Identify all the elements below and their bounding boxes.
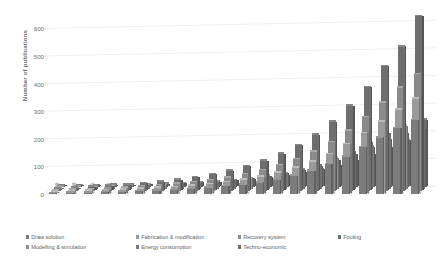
bar-side [216, 174, 217, 190]
bar-top [325, 163, 332, 165]
legend-label: Draw solution [31, 234, 64, 240]
legend-item[interactable]: Techno-economic [238, 244, 286, 250]
legend-item[interactable]: Fouling [338, 234, 361, 240]
legend-item[interactable]: Energy consumption [136, 244, 191, 250]
bar-face [239, 185, 246, 194]
bar-side [319, 135, 320, 190]
bar-side [322, 166, 323, 188]
bar-face [118, 192, 125, 194]
bar-top [326, 153, 333, 155]
legend-swatch-icon [136, 235, 139, 238]
bar-top [187, 188, 194, 190]
legend-swatch-icon [238, 235, 241, 238]
bar-top [376, 136, 383, 138]
bar-side [78, 188, 79, 190]
bar-top [101, 191, 108, 193]
legend-swatch-icon [136, 245, 139, 248]
bar-side [419, 99, 420, 193]
bar-side [162, 185, 163, 191]
bar-side [336, 122, 337, 190]
bar-face [170, 190, 177, 194]
bar-side [64, 186, 65, 187]
bar-side [338, 158, 339, 189]
bar [49, 193, 56, 194]
bar-side [269, 176, 270, 189]
legend-label: Modelling & simulation [31, 244, 86, 250]
bar-side [148, 186, 149, 189]
legend-label: Recovery system [243, 234, 285, 240]
bar-top [140, 182, 147, 184]
legend-swatch-icon [26, 235, 29, 238]
bar [393, 128, 400, 194]
bar-side [288, 173, 289, 187]
bar-top [346, 104, 353, 106]
x-axis-tick-labels: 1999200020012002200320042005200620072008… [44, 193, 436, 223]
bar-side [355, 151, 356, 189]
bar-face [101, 192, 108, 194]
bar [152, 191, 159, 194]
legend-swatch-icon [338, 235, 341, 238]
bar [101, 192, 108, 194]
bar-side [339, 160, 340, 187]
bar-top [171, 186, 178, 188]
bar-top [242, 173, 249, 175]
bar-side [335, 142, 336, 191]
bar-side [76, 190, 77, 192]
bar-side [108, 192, 109, 194]
bar [204, 188, 211, 194]
bar-top [295, 144, 302, 146]
legend-item[interactable]: Fabrication & modification [136, 234, 204, 240]
bar-face [273, 180, 280, 194]
bar-side [178, 187, 179, 193]
bar-top [173, 182, 180, 184]
chart-legend: Draw solutionFabrication & modificationR… [26, 234, 426, 260]
bar-side [56, 193, 57, 194]
bar-top [290, 174, 297, 176]
legend-label: Fabrication & modification [141, 234, 204, 240]
bar-side [369, 117, 370, 191]
bar-side [234, 180, 235, 189]
y-axis-tick-labels: 0100200300400500600 [18, 12, 44, 194]
bar-side [284, 154, 285, 190]
bar-side [83, 185, 84, 186]
bar-top [152, 189, 159, 191]
bar-side [203, 182, 204, 186]
bar-side [386, 103, 387, 191]
bar-side [112, 186, 113, 190]
bar-side [320, 164, 321, 189]
bar-face [49, 193, 56, 194]
bar-side [374, 147, 375, 188]
bar-top [414, 73, 421, 75]
bar-top [307, 169, 314, 171]
bar-side [267, 161, 268, 190]
bar-side [186, 183, 187, 186]
bar-side [383, 137, 384, 194]
bar-side [231, 178, 232, 192]
bar-side [422, 16, 423, 190]
legend-item[interactable]: Draw solution [26, 234, 64, 240]
bar-top [105, 184, 112, 186]
bar-top [135, 190, 142, 192]
bar-side [109, 190, 110, 192]
publications-bar-chart: Number of publications 01002003004005006… [0, 0, 443, 270]
bar-top [378, 120, 385, 122]
bar-top [276, 164, 283, 166]
bar-side [400, 128, 401, 194]
bar-side [144, 189, 145, 193]
bar-top [292, 166, 299, 168]
legend-item[interactable]: Modelling & simulation [26, 244, 86, 250]
bar-side [98, 186, 99, 187]
bar-top [49, 192, 56, 194]
bars-layer [44, 12, 436, 194]
legend-item[interactable]: Recovery system [238, 234, 285, 240]
bar-side [167, 184, 168, 187]
bar-side [247, 180, 248, 193]
bar-top [359, 146, 366, 148]
bar-top [398, 45, 405, 47]
bar-side [427, 120, 428, 186]
y-tick-200: 200 [18, 135, 44, 142]
bar-side [333, 154, 334, 193]
bar-top [379, 101, 386, 103]
bar-top [412, 97, 419, 99]
bar-top [257, 175, 264, 177]
